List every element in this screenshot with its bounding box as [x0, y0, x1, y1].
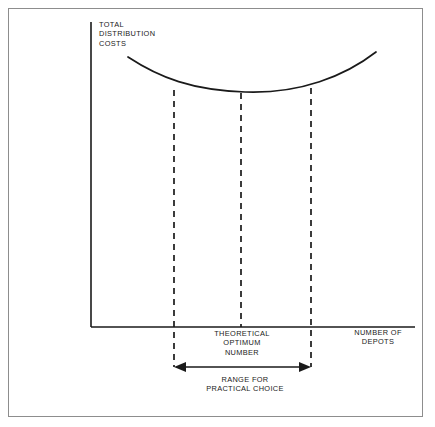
total-distribution-cost-curve [128, 52, 376, 92]
range-arrow-group [174, 362, 311, 372]
y-axis-label: TOTAL DISTRIBUTION COSTS [99, 20, 155, 48]
cost-curve-group [128, 52, 376, 92]
x-axis-label: NUMBER OF DEPOTS [341, 328, 415, 347]
dashed-marker-group [174, 88, 311, 367]
chart-plot-area [0, 0, 435, 427]
range-arrow-head-left [174, 362, 186, 372]
range-for-practical-choice-label: RANGE FOR PRACTICAL CHOICE [190, 375, 300, 394]
chart-figure: TOTAL DISTRIBUTION COSTS NUMBER OF DEPOT… [0, 0, 435, 427]
range-arrow-head-right [299, 362, 311, 372]
axes-group [91, 22, 415, 327]
theoretical-optimum-number-label: THEORETICAL OPTIMUM NUMBER [196, 329, 288, 357]
